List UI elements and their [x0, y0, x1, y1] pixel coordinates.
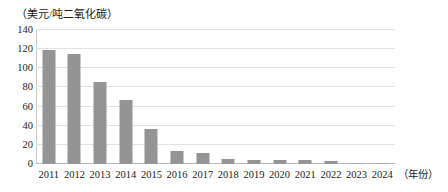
x-axis-tick-label: 2012 [64, 168, 85, 181]
x-axis-tick-label: 2019 [243, 168, 264, 181]
x-axis-tick-label: 2016 [167, 168, 188, 181]
bar-slot [318, 30, 344, 164]
bar [247, 160, 260, 164]
bar-slot [241, 30, 267, 164]
bar-slot [164, 30, 190, 164]
bar-slot [87, 30, 113, 164]
y-axis-tick-label: 40 [3, 121, 33, 131]
bar-slot [344, 30, 370, 164]
bar [42, 50, 55, 164]
y-axis-tick-label: 20 [3, 140, 33, 150]
bar [376, 163, 389, 164]
y-axis-tick-label: 140 [3, 25, 33, 35]
x-axis-tick-label: 2015 [141, 168, 162, 181]
x-axis-tick-label: 2023 [346, 168, 367, 181]
x-axis-tick-label: 2020 [269, 168, 290, 181]
bar-chart: （美元/吨二氧化碳） 020406080100120140 2011201220… [0, 0, 448, 192]
bar [171, 151, 184, 164]
x-axis-tick-label: 2014 [115, 168, 136, 181]
x-axis-tick-labels: 2011201220132014201520162017201820192020… [36, 168, 395, 184]
x-axis-tick-label: 2018 [218, 168, 239, 181]
x-axis-tick-label: 2021 [295, 168, 316, 181]
bar [145, 129, 158, 164]
x-axis-tick-label: 2024 [372, 168, 393, 181]
y-axis-tick-labels: 020406080100120140 [0, 30, 33, 164]
y-axis-tick-label: 0 [3, 159, 33, 169]
x-axis-title: （年份） [398, 168, 438, 181]
bar [299, 160, 312, 164]
bar-slot [369, 30, 395, 164]
y-axis-tick-label: 100 [3, 63, 33, 73]
bar-slot [62, 30, 88, 164]
bar-slot [36, 30, 62, 164]
bar [196, 153, 209, 164]
x-axis-tick-label: 2013 [90, 168, 111, 181]
bar [222, 159, 235, 164]
bar [273, 160, 286, 164]
y-axis-tick-label: 120 [3, 44, 33, 54]
x-axis-tick-label: 2011 [39, 168, 60, 181]
bar [324, 161, 337, 164]
x-axis-tick-label: 2022 [320, 168, 341, 181]
y-axis-tick-label: 80 [3, 82, 33, 92]
bar [94, 82, 107, 164]
bar-slot [292, 30, 318, 164]
bar-slot [216, 30, 242, 164]
bar [68, 54, 81, 164]
bar-slot [139, 30, 165, 164]
x-axis-tick-label: 2017 [192, 168, 213, 181]
y-axis-tick-label: 60 [3, 102, 33, 112]
bars-layer [36, 30, 395, 164]
bar-slot [113, 30, 139, 164]
bar-slot [267, 30, 293, 164]
bar [350, 163, 363, 164]
bar [119, 100, 132, 164]
bar-slot [190, 30, 216, 164]
y-axis-unit-label: （美元/吨二氧化碳） [16, 7, 118, 21]
